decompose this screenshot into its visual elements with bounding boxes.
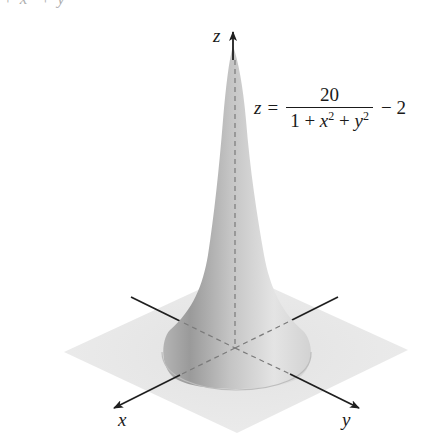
equation-denominator: 1 + x2 + y2 [286, 108, 373, 131]
denominator-plus: + [334, 110, 354, 131]
x-axis-label: x [118, 410, 126, 429]
y-axis-label: y [342, 410, 350, 429]
equation-lhs: z [254, 97, 261, 119]
z-axis-label: z [213, 26, 220, 45]
surface-equation: z = 20 1 + x2 + y2 − 2 [254, 85, 406, 131]
equation-numerator: 20 [316, 85, 343, 107]
surface-figure: + x² + y [0, 0, 434, 433]
denominator-y-exponent: 2 [363, 109, 369, 123]
denominator-y: y [355, 110, 363, 131]
surface-plot-svg [0, 0, 434, 433]
equation-rhs: − 2 [381, 97, 406, 119]
equation-equals: = [267, 97, 278, 119]
equation-fraction: 20 1 + x2 + y2 [286, 85, 373, 131]
denominator-term-1: 1 + [290, 110, 320, 131]
